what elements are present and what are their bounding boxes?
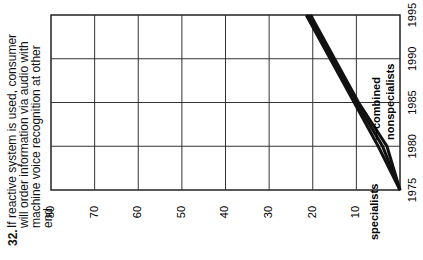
svg-text:20: 20 [306,206,318,218]
svg-text:10: 10 [349,206,361,218]
svg-text:1995: 1995 [406,3,418,27]
svg-text:1985: 1985 [406,90,418,114]
chart-plot: 807060504030201019751980198519901995spec… [0,0,423,260]
svg-text:1990: 1990 [406,47,418,71]
svg-text:nonspecialists: nonspecialists [384,64,396,140]
svg-text:1975: 1975 [406,178,418,202]
svg-text:60: 60 [131,206,143,218]
svg-text:40: 40 [218,206,230,218]
axis-labels: 807060504030201019751980198519901995spec… [44,3,418,240]
svg-text:50: 50 [175,206,187,218]
svg-text:—combined: —combined [370,77,382,140]
svg-text:specialists: specialists [368,184,380,240]
svg-text:1980: 1980 [406,134,418,158]
svg-text:80: 80 [44,206,56,218]
svg-text:30: 30 [262,206,274,218]
svg-text:70: 70 [88,206,100,218]
grid [51,15,400,190]
